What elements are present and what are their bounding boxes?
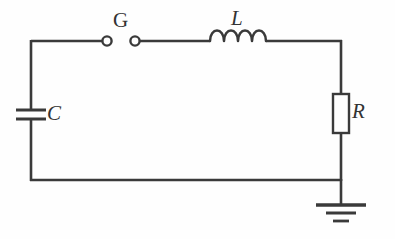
- capacitor-component: [16, 110, 46, 119]
- inductor-coil-path: [210, 31, 266, 42]
- inductor-component: [210, 31, 266, 42]
- inductor-label: L: [231, 8, 243, 29]
- circuit-diagram-figure: G L C R: [0, 0, 395, 239]
- resistor-label: R: [352, 101, 365, 122]
- resistor-component: [333, 94, 349, 133]
- capacitor-label: C: [47, 103, 61, 124]
- spark-gap-component: [102, 36, 139, 45]
- resistor-box: [333, 94, 349, 133]
- spark-gap-label: G: [113, 10, 128, 31]
- ground-component: [316, 179, 366, 221]
- spark-gap-right-node: [130, 36, 139, 45]
- spark-gap-left-node: [102, 36, 111, 45]
